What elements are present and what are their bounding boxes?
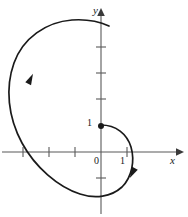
y-tick-label-one: 1	[87, 118, 92, 128]
y-axis-label: y	[93, 5, 98, 16]
origin-label: 0	[94, 156, 99, 166]
x-axis-arrowhead	[176, 148, 184, 156]
plot-canvas	[0, 0, 188, 217]
start-point-marker	[98, 123, 104, 129]
y-axis	[96, 8, 106, 214]
direction-arrow-upper-left	[25, 74, 33, 85]
x-axis-label: x	[170, 155, 175, 166]
spiral-curve-figure: y x 0 1 1	[0, 0, 188, 217]
x-tick-label-one: 1	[120, 156, 125, 166]
spiral-curve	[9, 20, 133, 197]
y-axis-arrowhead	[97, 8, 105, 16]
